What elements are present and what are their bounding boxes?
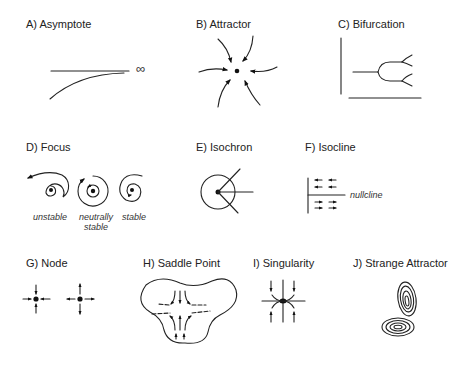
saddle-arrow — [185, 291, 190, 304]
strange-attractor-loop — [402, 291, 412, 310]
bifurcation-upper-branch — [378, 62, 402, 72]
asymptote-curve — [50, 73, 124, 99]
attractor-arrow — [243, 36, 253, 61]
strange-attractor-figure — [382, 281, 418, 336]
attractor-figure — [199, 36, 277, 107]
saddle-arrow — [170, 316, 175, 330]
node-unstable-figure — [67, 284, 94, 314]
saddle-point-figure — [141, 279, 237, 343]
focus-point — [130, 188, 134, 192]
saddle-arrow — [171, 291, 175, 304]
bifurcation-branch — [402, 55, 412, 62]
focus-stable-figure — [120, 175, 142, 202]
attractor-arrow — [218, 80, 230, 107]
isochron-line — [218, 169, 240, 192]
bifurcation-branch — [402, 62, 412, 66]
bifurcation-branch — [402, 74, 412, 81]
bifurcation-branch — [402, 81, 412, 86]
strange-attractor-loop — [405, 296, 410, 306]
isochron-figure — [201, 169, 253, 213]
asymptote-figure — [50, 71, 129, 99]
focus-point — [49, 188, 53, 192]
isocline-figure — [308, 178, 345, 213]
saddle-arrow — [185, 316, 191, 330]
diagram-canvas — [0, 0, 465, 365]
bifurcation-figure — [341, 38, 421, 98]
focus-spiral-unstable — [28, 173, 69, 197]
attractor-arrow — [251, 67, 277, 72]
node-point — [77, 296, 82, 301]
attractor-arrow — [218, 39, 231, 62]
focus-neutral-figure — [78, 176, 108, 206]
strange-attractor-loop — [390, 323, 406, 331]
attractor-arrow — [245, 81, 260, 105]
focus-point — [91, 189, 95, 193]
saddle-boundary — [141, 279, 237, 343]
node-point — [33, 296, 38, 301]
node-stable-figure — [23, 285, 50, 313]
focus-unstable-figure — [28, 173, 69, 197]
strange-attractor-loop — [394, 325, 402, 329]
attractor-arrow — [199, 69, 227, 72]
bifurcation-lower-branch — [378, 72, 402, 81]
saddle-dash — [158, 304, 169, 305]
focus-spiral-stable — [120, 175, 142, 202]
singularity-figure — [262, 280, 305, 322]
saddle-dash — [192, 311, 210, 313]
attractor-point — [235, 69, 240, 74]
saddle-dash — [152, 313, 170, 314]
